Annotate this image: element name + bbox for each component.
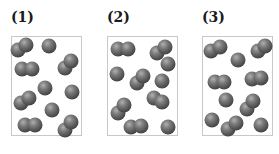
atom-sphere xyxy=(161,120,176,135)
atom-sphere xyxy=(155,95,170,110)
panel-label: (2) xyxy=(107,9,130,25)
atom-sphere xyxy=(117,98,132,113)
atom-sphere xyxy=(42,39,57,54)
atom-sphere xyxy=(136,69,151,84)
atom-sphere xyxy=(161,57,176,72)
atom-sphere xyxy=(38,81,53,96)
atom-sphere xyxy=(45,103,60,118)
panel-label: (1) xyxy=(11,9,34,25)
atom-sphere xyxy=(229,116,244,131)
atom-sphere xyxy=(231,53,246,68)
atom-sphere xyxy=(121,42,136,57)
atom-sphere xyxy=(254,71,269,86)
atom-sphere xyxy=(110,67,125,82)
atom-sphere xyxy=(134,119,149,134)
atom-sphere xyxy=(28,118,43,133)
atom-sphere xyxy=(25,62,40,77)
molecule-box xyxy=(107,36,178,136)
panel-label: (3) xyxy=(202,9,225,25)
atom-sphere xyxy=(217,75,232,90)
atom-sphere xyxy=(64,54,79,69)
molecule-box xyxy=(11,36,82,136)
atom-sphere xyxy=(19,38,34,53)
atom-sphere xyxy=(258,39,273,54)
atom-sphere xyxy=(219,93,234,108)
atom-sphere xyxy=(65,85,80,100)
atom-sphere xyxy=(22,91,37,106)
atom-sphere xyxy=(213,40,228,55)
atom-sphere xyxy=(254,118,269,133)
atom-sphere xyxy=(158,40,173,55)
atom-sphere xyxy=(64,115,79,130)
atom-sphere xyxy=(155,74,170,89)
atom-sphere xyxy=(246,94,261,109)
molecule-box xyxy=(202,36,273,136)
atom-sphere xyxy=(205,113,220,128)
